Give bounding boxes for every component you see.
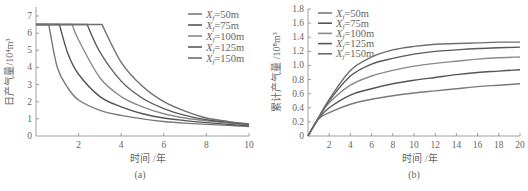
y-tick-label: 1 bbox=[27, 114, 32, 124]
x-axis-label-b: 时间 /年 bbox=[402, 152, 437, 164]
chart-panel-b: 00.20.40.60.81.01.21.41.61.8 24681012141… bbox=[270, 4, 525, 181]
y-tick-label: 0 bbox=[299, 131, 304, 141]
y-axis-label-a: 日产气量/10⁴m³ bbox=[3, 38, 15, 105]
legend-b: Xf=50mXf=75mXf=100mXf=125mXf=150m bbox=[318, 8, 374, 62]
y-tick-label: 0.6 bbox=[292, 89, 304, 99]
y-tick-label: 1.4 bbox=[292, 32, 304, 42]
y-tick-label: 4 bbox=[27, 62, 32, 72]
y-tick-label: 0 bbox=[27, 131, 32, 141]
x-tick-label: 2 bbox=[327, 140, 332, 150]
x-tick-label: 10 bbox=[409, 140, 419, 150]
x-axis-label-a: 时间 /年 bbox=[130, 152, 165, 164]
y-tick-label: 1.6 bbox=[292, 18, 304, 28]
y-tick-label: 7 bbox=[27, 11, 32, 21]
x-tick-label: 2 bbox=[76, 140, 81, 150]
y-tick-label: 1.8 bbox=[292, 4, 304, 14]
figure: 01234567 246810 Xf=50mXf=75mXf=100mXf=12… bbox=[0, 0, 528, 191]
y-tick-label: 0.2 bbox=[292, 117, 304, 127]
series-line bbox=[308, 57, 520, 136]
series-line bbox=[308, 47, 520, 136]
y-tick-label: 6 bbox=[27, 28, 32, 38]
x-tick-label: 6 bbox=[161, 140, 166, 150]
x-tick-label: 8 bbox=[390, 140, 395, 150]
x-tick-label: 18 bbox=[494, 140, 504, 150]
y-tick-label: 1.0 bbox=[292, 60, 304, 70]
legend-label: Xf=150m bbox=[335, 48, 374, 61]
y-tick-label: 0.4 bbox=[292, 103, 304, 113]
series-line bbox=[308, 84, 520, 136]
y-tick-label: 1.2 bbox=[292, 46, 304, 56]
x-tick-label: 10 bbox=[244, 140, 254, 150]
y-tick-label: 3 bbox=[27, 80, 32, 90]
series-line bbox=[308, 70, 520, 136]
y-tick-label: 5 bbox=[27, 45, 32, 55]
x-tick-label: 4 bbox=[348, 140, 353, 150]
x-tick-label: 16 bbox=[473, 140, 483, 150]
x-tick-label: 4 bbox=[119, 140, 124, 150]
x-tick-label: 6 bbox=[369, 140, 374, 150]
legend-label: Xf=150m bbox=[205, 53, 244, 66]
x-tick-label: 20 bbox=[515, 140, 525, 150]
x-tick-label: 8 bbox=[204, 140, 209, 150]
x-tick-label: 12 bbox=[430, 140, 440, 150]
caption-b: (b) bbox=[408, 169, 420, 181]
y-tick-label: 2 bbox=[27, 97, 32, 107]
x-tick-label: 14 bbox=[452, 140, 462, 150]
y-tick-label: 0.8 bbox=[292, 75, 304, 85]
chart-panel-a: 01234567 246810 Xf=50mXf=75mXf=100mXf=12… bbox=[3, 7, 254, 181]
y-axis-label-b: 累计产气量 /10⁸m³ bbox=[270, 32, 282, 112]
caption-a: (a) bbox=[134, 169, 145, 181]
legend-a: Xf=50mXf=75mXf=100mXf=125mXf=150m bbox=[188, 9, 244, 66]
